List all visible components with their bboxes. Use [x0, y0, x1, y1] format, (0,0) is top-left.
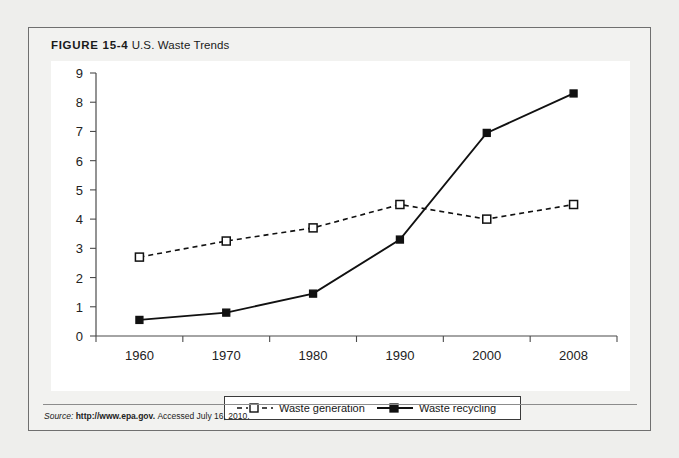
waste-trends-line-chart: 0123456789 196019701980199020002008	[51, 61, 630, 391]
plot-panel: 0123456789 196019701980199020002008	[51, 61, 630, 391]
y-tick-label: 3	[76, 241, 83, 256]
data-point-marker	[136, 316, 143, 323]
data-point-marker	[223, 309, 230, 316]
source-prefix: Source:	[44, 411, 73, 421]
x-axis-ticks: 196019701980199020002008	[96, 336, 617, 363]
chart-legend: Waste generation Waste recycling	[224, 396, 521, 420]
figure-card: FIGURE 15-4 U.S. Waste Trends 0123456789…	[28, 27, 651, 431]
legend-item-waste-generation: Waste generation	[237, 400, 365, 416]
chart-axes	[96, 73, 617, 336]
data-point-marker	[135, 253, 143, 261]
data-point-marker	[396, 236, 403, 243]
legend-item-waste-recycling: Waste recycling	[377, 400, 496, 416]
source-url: http://www.epa.gov.	[76, 411, 155, 421]
series-line-waste-generation	[139, 205, 573, 258]
x-tick-label: 1970	[212, 348, 241, 363]
y-tick-label: 9	[76, 66, 83, 81]
data-point-marker	[309, 224, 317, 232]
y-tick-label: 1	[76, 300, 83, 315]
x-tick-label: 2000	[472, 348, 501, 363]
y-tick-label: 4	[76, 212, 83, 227]
data-point-marker	[483, 215, 491, 223]
source-note: Source: http://www.epa.gov. Accessed Jul…	[44, 411, 250, 421]
source-divider	[43, 404, 637, 405]
x-tick-label: 1960	[125, 348, 154, 363]
x-tick-label: 2008	[559, 348, 588, 363]
data-point-marker	[483, 129, 490, 136]
figure-number: FIGURE 15-4	[51, 39, 128, 51]
y-axis-ticks: 0123456789	[76, 66, 96, 344]
y-tick-label: 5	[76, 183, 83, 198]
y-tick-label: 8	[76, 95, 83, 110]
source-accessed: Accessed July 16, 2010.	[157, 411, 249, 421]
data-point-marker	[222, 237, 230, 245]
figure-title-text: U.S. Waste Trends	[132, 39, 230, 51]
y-tick-label: 0	[76, 329, 83, 344]
data-point-marker	[396, 201, 404, 209]
figure-header: FIGURE 15-4 U.S. Waste Trends	[29, 28, 650, 56]
figure-caption: FIGURE 15-4 U.S. Waste Trends	[51, 39, 229, 51]
x-tick-label: 1990	[385, 348, 414, 363]
data-point-marker	[570, 201, 578, 209]
x-tick-label: 1980	[299, 348, 328, 363]
y-tick-label: 7	[76, 124, 83, 139]
y-tick-label: 6	[76, 154, 83, 169]
series-line-waste-recycling	[139, 93, 573, 319]
data-point-marker	[570, 90, 577, 97]
y-tick-label: 2	[76, 271, 83, 286]
chart-series	[135, 90, 577, 323]
data-point-marker	[310, 290, 317, 297]
